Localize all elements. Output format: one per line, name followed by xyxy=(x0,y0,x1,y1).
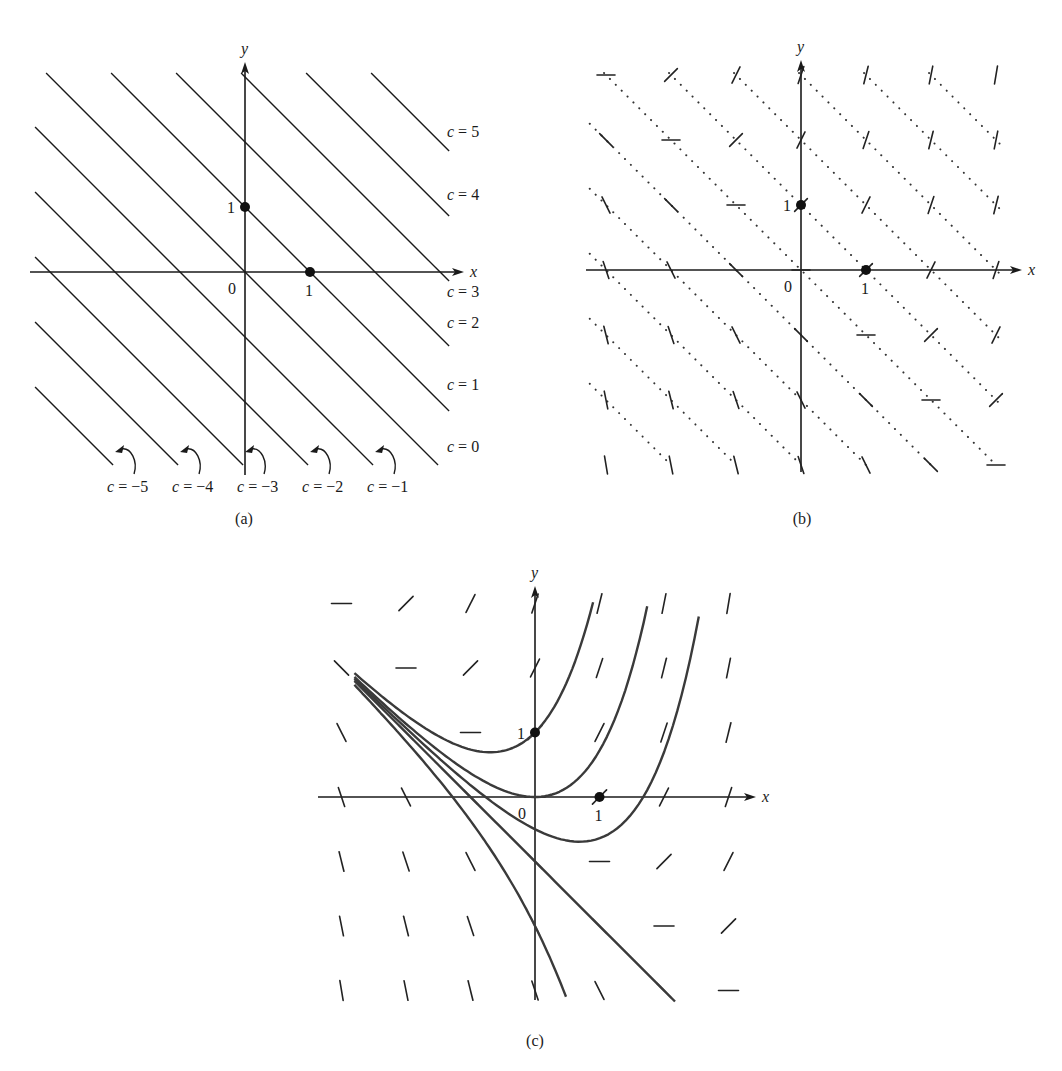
caption-b: (b) xyxy=(793,510,812,528)
slope-mark xyxy=(604,391,608,409)
isocline-label: c = −1 xyxy=(367,478,408,495)
dotted-isocline xyxy=(590,189,866,465)
slope-mark xyxy=(669,456,673,474)
dotted-isocline xyxy=(590,384,671,465)
curl-arrow-icon xyxy=(381,449,395,474)
slope-mark xyxy=(929,66,933,84)
origin-label: 0 xyxy=(784,278,792,295)
curl-arrowhead-icon xyxy=(245,445,254,453)
y-axis-label: y xyxy=(529,564,539,582)
slope-mark xyxy=(724,853,733,871)
slope-mark xyxy=(860,394,873,407)
dotted-isocline xyxy=(864,73,1002,211)
isocline-label: c = 2 xyxy=(447,314,479,331)
isocline-label: c = −5 xyxy=(107,478,148,495)
figure-canvas: xy0c = 5c = 4c = 3c = 2c = 1c = 0c = −1c… xyxy=(0,0,1062,1071)
slope-mark xyxy=(992,327,1000,343)
slope-mark xyxy=(862,197,870,213)
y-tick-1-label: 1 xyxy=(227,199,235,216)
slope-mark xyxy=(734,456,738,473)
isocline-line xyxy=(35,257,243,465)
isocline-line xyxy=(371,73,449,151)
slope-mark xyxy=(657,854,671,868)
slope-mark xyxy=(726,723,731,742)
slope-mark xyxy=(925,459,938,472)
isocline-label: c = 3 xyxy=(447,283,479,300)
curl-arrowhead-icon xyxy=(310,445,319,453)
slope-mark xyxy=(403,852,409,871)
isocline-label: c = −4 xyxy=(172,478,213,495)
isocline-line xyxy=(111,73,449,411)
slope-mark xyxy=(596,659,602,678)
dotted-isocline xyxy=(799,73,1002,276)
curl-arrowhead-icon xyxy=(375,445,384,453)
solution-curve xyxy=(354,602,593,752)
y-axis-label: y xyxy=(239,40,249,58)
marked-point xyxy=(861,265,871,275)
slope-mark xyxy=(994,196,998,213)
slope-mark xyxy=(337,724,346,742)
slope-mark xyxy=(339,852,344,871)
slope-mark xyxy=(602,197,610,213)
isocline-line xyxy=(306,73,449,216)
slope-mark xyxy=(669,391,673,408)
slope-mark xyxy=(727,658,731,678)
curl-arrowhead-icon xyxy=(180,445,189,453)
slope-mark xyxy=(925,329,938,342)
dotted-isocline xyxy=(590,124,931,465)
x-axis-label: x xyxy=(1027,261,1035,278)
isocline-line xyxy=(176,73,449,346)
slope-mark xyxy=(340,981,343,1001)
marked-point xyxy=(530,728,540,738)
slope-mark xyxy=(595,724,604,742)
slope-mark xyxy=(604,326,608,343)
slope-mark xyxy=(730,134,743,147)
slope-mark xyxy=(732,327,740,343)
slope-mark xyxy=(463,661,477,675)
dotted-isocline xyxy=(590,319,736,465)
slope-mark xyxy=(399,596,413,610)
dotted-isocline xyxy=(590,254,801,465)
curl-arrow-icon xyxy=(316,449,330,474)
slope-mark xyxy=(929,131,933,148)
x-tick-1-label: 1 xyxy=(305,282,313,299)
slope-mark xyxy=(665,199,678,212)
isocline-line xyxy=(35,192,308,465)
isocline-line xyxy=(46,73,438,465)
solution-curve xyxy=(354,616,698,841)
slope-mark xyxy=(605,456,608,474)
isocline-label: c = −2 xyxy=(302,478,343,495)
curl-arrow-icon xyxy=(121,449,135,474)
slope-mark xyxy=(468,981,473,1000)
slope-mark xyxy=(340,916,344,936)
slope-mark xyxy=(864,66,868,83)
dotted-isocline xyxy=(734,73,1002,341)
dotted-isocline xyxy=(669,73,1002,406)
x-axis-label: x xyxy=(469,263,477,280)
marked-point xyxy=(240,202,250,212)
slope-mark xyxy=(995,66,998,84)
slope-mark xyxy=(863,131,869,148)
caption-a: (a) xyxy=(235,510,253,528)
marked-point xyxy=(595,792,605,802)
marked-point xyxy=(796,200,806,210)
slope-mark xyxy=(467,917,473,936)
slope-mark xyxy=(600,134,613,147)
slope-mark xyxy=(662,594,666,614)
solution-curve xyxy=(354,606,647,797)
slope-mark xyxy=(404,916,409,935)
y-tick-1-label: 1 xyxy=(517,725,525,742)
slope-mark xyxy=(595,982,604,1000)
y-axis-label: y xyxy=(795,38,805,56)
marked-point xyxy=(305,267,315,277)
slope-mark xyxy=(994,131,998,149)
panel-c-solution-curves: xy011 xyxy=(318,564,769,1002)
curl-arrowhead-icon xyxy=(115,445,124,453)
x-tick-1-label: 1 xyxy=(861,280,869,297)
slope-mark xyxy=(733,391,739,408)
curl-arrow-icon xyxy=(186,449,200,474)
isocline-label: c = −3 xyxy=(237,478,278,495)
solution-curve xyxy=(354,681,675,1002)
slope-mark xyxy=(727,594,730,614)
slope-mark xyxy=(721,919,735,933)
